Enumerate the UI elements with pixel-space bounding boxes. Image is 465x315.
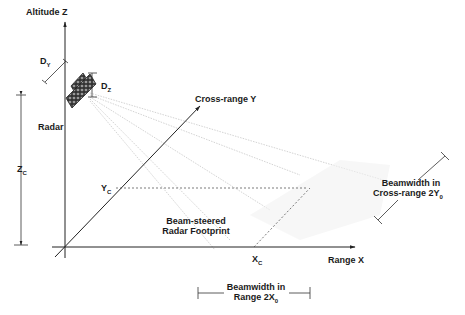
yc-label: YC bbox=[101, 183, 112, 195]
dz-label: DZ bbox=[101, 81, 112, 93]
beamwidth-cross-line2: Cross-range 2Y0 bbox=[373, 188, 444, 200]
cross-range-y-label: Cross-range Y bbox=[195, 94, 256, 104]
xc-label: XC bbox=[252, 254, 263, 266]
altitude-z-label: Altitude Z bbox=[26, 7, 68, 17]
beamwidth-cross-line1: Beamwidth in bbox=[382, 178, 441, 188]
radar-geometry-diagram: Altitude Z Cross-range Y Range X Radar D… bbox=[0, 0, 465, 315]
footprint-shape bbox=[250, 160, 390, 240]
beamwidth-range-line2: Range 2X0 bbox=[234, 292, 279, 304]
beamwidth-range-line1: Beamwidth in bbox=[227, 282, 286, 292]
zc-label: ZC bbox=[17, 164, 28, 176]
range-x-label: Range X bbox=[328, 255, 364, 265]
dy-label: DY bbox=[40, 56, 51, 68]
radar-label: Radar bbox=[38, 122, 64, 132]
beamwidth-cross-range-dimension bbox=[418, 156, 445, 180]
footprint-line2: Radar Footprint bbox=[162, 226, 230, 236]
footprint-line1: Beam-steered bbox=[166, 216, 226, 226]
